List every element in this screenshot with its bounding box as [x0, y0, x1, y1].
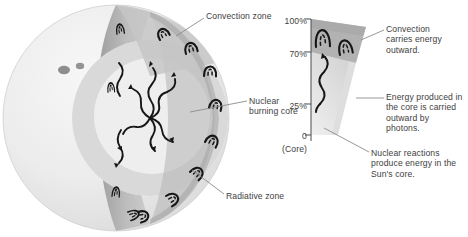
- label-radiative-zone: Radiative zone: [226, 191, 284, 201]
- annotation-convection-carries-energy: Convection carries energy outward.: [386, 24, 442, 55]
- axis-label-core: (Core): [268, 144, 307, 154]
- sunspot-icon: [58, 66, 70, 74]
- label-convection-zone: Convection zone: [206, 11, 272, 21]
- leader-line-core-note: [324, 128, 369, 152]
- wedge-axis: [305, 19, 311, 141]
- annotation-nuclear-reactions: Nuclear reactions produce energy in the …: [371, 148, 456, 179]
- solar-interior-figure: Convection zone Nuclear burning core Rad…: [0, 0, 468, 237]
- axis-label-25: 25%: [277, 101, 307, 111]
- axis-label-100: 100%: [277, 16, 307, 26]
- annotation-energy-carried-by-photons: Energy produced in the core is carried o…: [386, 92, 462, 134]
- axis-label-70: 70%: [277, 49, 307, 59]
- sunspot-icon: [76, 63, 84, 69]
- wedge-group: [305, 19, 384, 152]
- axis-label-0: 0: [277, 131, 307, 141]
- sphere-group: [3, 5, 247, 231]
